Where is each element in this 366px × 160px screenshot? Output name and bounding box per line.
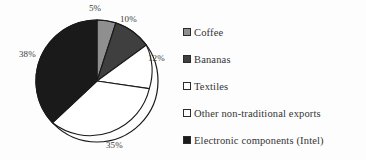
slice-label-coffee: 5%: [89, 3, 101, 13]
pie-chart-screenshot: 5% 10% 12% 35% 38% Coffee Bananas Textil…: [0, 0, 366, 160]
legend-label-textiles: Textiles: [194, 81, 228, 92]
chart-legend: Coffee Bananas Textiles Other non-tradit…: [183, 20, 366, 152]
legend-item-other-non-traditional-exports[interactable]: Other non-traditional exports: [183, 106, 321, 120]
slice-label-electronic-components: 38%: [19, 49, 36, 59]
legend-item-coffee[interactable]: Coffee: [183, 25, 223, 39]
legend-swatch-bananas: [183, 55, 191, 63]
slice-label-other-non-traditional-exports: 35%: [106, 140, 123, 150]
legend-swatch-coffee: [183, 28, 191, 36]
legend-label-bananas: Bananas: [194, 54, 231, 65]
legend-label-electronic-components: Electronic components (Intel): [194, 135, 324, 146]
legend-swatch-textiles: [183, 82, 191, 90]
pie-chart-plot-area: 5% 10% 12% 35% 38%: [0, 0, 180, 160]
legend-item-electronic-components[interactable]: Electronic components (Intel): [183, 133, 324, 147]
legend-label-coffee: Coffee: [194, 27, 223, 38]
legend-item-bananas[interactable]: Bananas: [183, 52, 231, 66]
legend-swatch-electronic-components: [183, 136, 191, 144]
legend-item-textiles[interactable]: Textiles: [183, 79, 228, 93]
slice-label-textiles: 12%: [148, 53, 165, 63]
pie-chart-svg: [0, 0, 180, 160]
legend-swatch-other-non-traditional-exports: [183, 109, 191, 117]
legend-label-other-non-traditional-exports: Other non-traditional exports: [194, 108, 321, 119]
slice-label-bananas: 10%: [120, 14, 137, 24]
